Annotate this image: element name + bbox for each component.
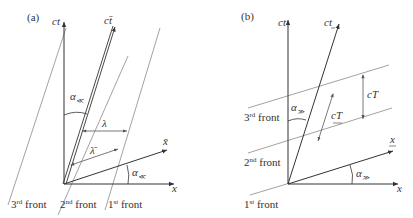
ct-axis-label-b: ct (278, 16, 287, 28)
angle-arc-top-b (288, 119, 306, 121)
angle-label-top-b: α≫ (291, 101, 305, 116)
front-3-label-b: 3rd front (244, 111, 279, 123)
cT-label: cT (367, 88, 379, 100)
x-under-axis-label: x (389, 133, 395, 145)
front-3-line (8, 28, 66, 205)
panel-a-label: (a) (27, 11, 40, 24)
angle-arc-top (64, 112, 87, 115)
panel-a: (a) ct ct̄ x x̄ α≪ α≪ λ λ̄ (8, 11, 177, 215)
front-1-label: 1st front (108, 198, 142, 210)
lambda-bar-label: λ̄ (89, 144, 98, 156)
front-2-line (58, 56, 128, 215)
front-3-line-b (248, 65, 389, 108)
angle-label-bottom: α≪ (132, 166, 146, 181)
front-1-line-b (250, 183, 290, 195)
ct-axis-label: ct (52, 15, 61, 27)
angle-arc-bottom-b (350, 165, 353, 184)
x-under-axis (288, 151, 393, 184)
lambda-label: λ (101, 117, 107, 129)
angle-label-bottom-b: α≫ (356, 167, 370, 182)
cT-moving-label: cT (331, 109, 343, 121)
ct-bar-axis-label: ct̄ (104, 14, 113, 26)
x-axis-label: x (171, 182, 177, 194)
x-axis-label-b: x (396, 182, 402, 194)
spacetime-diagram: (a) ct ct̄ x x̄ α≪ α≪ λ λ̄ (0, 0, 413, 218)
panel-b: (b) ct ct x x α≫ α≫ cT (241, 10, 402, 210)
angle-arc-bottom (127, 165, 129, 184)
panel-b-label: (b) (241, 10, 254, 23)
front-1-label-b: 1st front (244, 198, 278, 210)
ct-under-axis-label: ct (324, 16, 333, 28)
front-2-label: 2nd front (60, 198, 97, 210)
front-3-label: 3rd front (11, 198, 46, 210)
x-bar-axis-label: x̄ (162, 135, 168, 147)
front-1-line (105, 28, 160, 210)
ct-bar-axis (63, 26, 113, 184)
front-2-label-b: 2nd front (244, 156, 281, 168)
angle-label-top: α≪ (70, 90, 84, 105)
